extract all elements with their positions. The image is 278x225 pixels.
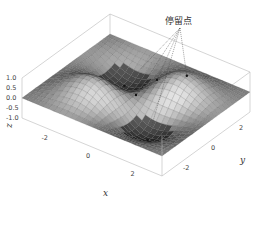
x-axis-label: x	[103, 188, 108, 198]
y-tick-label: -2	[183, 164, 189, 172]
z-tick-label: 0.0	[6, 94, 16, 102]
stationary-point-marker	[186, 75, 188, 77]
y-axis-label: y	[239, 155, 246, 165]
z-axis-label: z	[4, 123, 14, 129]
x-tick-label: -2	[41, 134, 47, 142]
stationary-points-annotation: 停留点	[165, 15, 192, 26]
z-tick-label: 1.0	[6, 74, 16, 82]
surface-plot: -202-2021.00.50.0-0.5-1.0 x y z 停留点	[0, 0, 278, 225]
z-tick-label: -0.5	[6, 104, 19, 112]
z-tick-label: 0.5	[6, 84, 16, 92]
y-tick-label: 2	[239, 124, 243, 132]
x-tick-label: 0	[86, 152, 90, 160]
y-tick-label: 0	[211, 144, 215, 152]
z-tick-label: -1.0	[6, 114, 19, 122]
x-tick-label: 2	[131, 170, 135, 178]
